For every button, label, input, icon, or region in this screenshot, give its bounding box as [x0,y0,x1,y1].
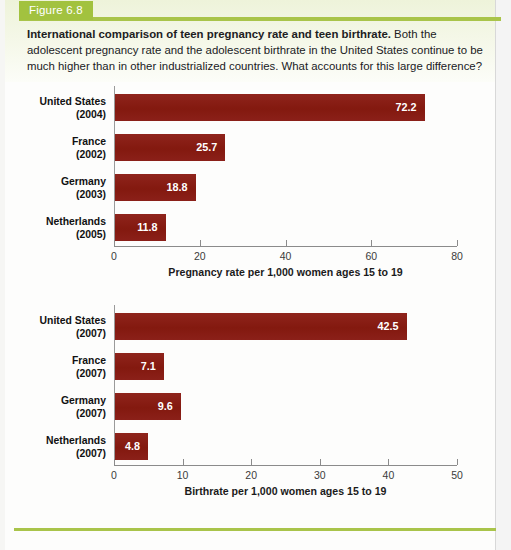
x-tick-label: 40 [280,250,292,262]
category-label: France(2007) [0,354,106,380]
chart1-x-axis-line [114,246,457,247]
x-tick [114,459,115,465]
x-tick [457,240,458,246]
category-year: (2003) [0,188,106,201]
x-tick-label: 40 [383,469,395,481]
category-year: (2004) [0,108,106,121]
x-tick [371,240,372,246]
bar-value-label: 72.2 [396,94,417,121]
bar-value-label: 25.7 [196,134,217,161]
bar: 4.8 [115,433,148,460]
bar-value-label: 9.6 [158,393,173,420]
category-label: United States(2007) [0,314,106,340]
bar-value-label: 42.5 [378,313,399,340]
x-tick-label: 0 [111,250,117,262]
x-tick-label: 0 [111,469,117,481]
category-name: France [72,136,106,147]
x-tick-label: 10 [177,469,189,481]
x-tick-label: 50 [451,469,463,481]
footer-accent-rule [14,528,496,531]
category-name: United States [40,96,106,107]
x-tick-label: 30 [314,469,326,481]
x-tick [114,240,115,246]
category-name: Germany [61,395,106,406]
chart2-x-axis-line [114,465,457,466]
bar: 42.5 [115,313,407,340]
category-year: (2007) [0,367,106,380]
x-tick [200,240,201,246]
bar-value-label: 4.8 [125,433,140,460]
category-name: Netherlands [46,435,106,446]
bar: 7.1 [115,353,164,380]
category-year: (2007) [0,327,106,340]
bar-value-label: 18.8 [167,174,188,201]
category-label: Netherlands(2007) [0,434,106,460]
figure-caption: International comparison of teen pregnan… [27,26,487,75]
x-tick [251,459,252,465]
x-tick [388,459,389,465]
figure-number-tab: Figure 6.8 [19,1,93,20]
category-year: (2002) [0,148,106,161]
category-name: France [72,355,106,366]
category-label: Netherlands(2005) [0,215,106,241]
figure-page: Figure 6.8 International comparison of t… [0,0,511,550]
bar: 9.6 [115,393,181,420]
category-name: United States [40,315,106,326]
bar: 25.7 [115,134,225,161]
x-tick [457,459,458,465]
chart1-x-axis-title: Pregnancy rate per 1,000 women ages 15 t… [114,266,457,278]
category-year: (2007) [0,447,106,460]
category-name: Germany [61,176,106,187]
x-tick-label: 20 [245,469,257,481]
x-tick [320,459,321,465]
category-label: Germany(2007) [0,394,106,420]
chart2-x-axis-title: Birthrate per 1,000 women ages 15 to 19 [114,485,457,497]
category-label: United States(2004) [0,95,106,121]
figure-header: Figure 6.8 International comparison of t… [5,0,495,82]
bar: 11.8 [115,214,166,241]
x-tick-label: 60 [365,250,377,262]
category-year: (2005) [0,228,106,241]
category-label: France(2002) [0,135,106,161]
bar-value-label: 7.1 [141,353,156,380]
page-left-edge [0,0,5,550]
figure-caption-title: International comparison of teen pregnan… [27,28,391,40]
x-tick [183,459,184,465]
x-tick [286,240,287,246]
page-outer-margin [496,0,511,550]
bar-value-label: 11.8 [137,214,157,241]
x-tick-label: 80 [451,250,463,262]
bar: 72.2 [115,94,425,121]
category-year: (2007) [0,407,106,420]
bar: 18.8 [115,174,196,201]
category-name: Netherlands [46,216,106,227]
x-tick-label: 20 [194,250,206,262]
category-label: Germany(2003) [0,175,106,201]
